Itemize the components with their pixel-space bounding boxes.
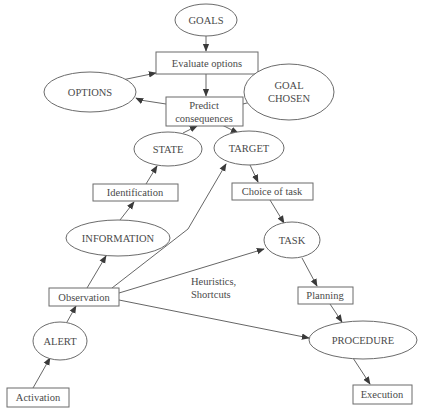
node-goals-label: GOALS <box>188 15 223 26</box>
edge-observation-to-information <box>87 256 106 288</box>
edge-activation-to-alert <box>33 358 50 388</box>
edge-predict-to-options <box>136 98 166 104</box>
node-state: STATE <box>134 132 202 166</box>
node-goal-chosen: GOAL CHOSEN <box>244 64 334 120</box>
node-goal-chosen-line1: GOAL <box>274 80 303 91</box>
edge-planning-to-procedure <box>330 304 342 322</box>
annotation-heuristics-line2: Shortcuts <box>191 289 231 300</box>
node-identification: Identification <box>93 184 178 201</box>
node-observation: Observation <box>49 288 119 306</box>
node-execution-label: Execution <box>361 389 404 400</box>
node-activation: Activation <box>7 388 69 407</box>
node-task: TASK <box>264 222 320 258</box>
edge-identification-to-state <box>146 166 157 184</box>
node-predict-line1: Predict <box>189 100 219 111</box>
annotation-heuristics-line1: Heuristics, <box>191 276 236 287</box>
annotation-heuristics: Heuristics, Shortcuts <box>191 276 236 300</box>
node-predict-line2: consequences <box>175 113 233 124</box>
node-alert-label: ALERT <box>43 336 77 347</box>
node-options-label: OPTIONS <box>68 87 112 98</box>
node-target-label: TARGET <box>229 143 270 154</box>
node-identification-label: Identification <box>107 187 164 198</box>
node-evaluate-options: Evaluate options <box>156 52 258 74</box>
node-options: OPTIONS <box>44 72 136 112</box>
edge-information-to-identification <box>120 202 134 220</box>
edge-alert-to-observation <box>67 306 76 322</box>
node-state-label: STATE <box>153 144 184 155</box>
node-procedure: PROCEDURE <box>309 321 417 359</box>
edge-state-to-predict <box>183 126 197 133</box>
node-information-label: INFORMATION <box>82 233 155 244</box>
node-planning-label: Planning <box>306 290 344 301</box>
node-execution: Execution <box>353 385 412 404</box>
edge-target-to-choice <box>250 165 258 182</box>
edge-options-to-evaluate <box>122 73 156 80</box>
node-observation-label: Observation <box>58 292 110 303</box>
decision-ladder-diagram: GOALS Evaluate options OPTIONS GOAL CHOS… <box>0 0 424 419</box>
node-goal-chosen-line2: CHOSEN <box>268 93 310 104</box>
node-choice-of-task-label: Choice of task <box>242 186 303 197</box>
edge-choice-to-task <box>270 200 284 223</box>
node-choice-of-task: Choice of task <box>232 183 313 200</box>
node-activation-label: Activation <box>16 392 61 403</box>
node-information: INFORMATION <box>66 220 170 256</box>
node-planning: Planning <box>298 287 353 304</box>
node-evaluate-options-label: Evaluate options <box>172 58 242 69</box>
node-goals: GOALS <box>175 4 237 36</box>
node-procedure-label: PROCEDURE <box>332 335 394 346</box>
edge-procedure-to-execution <box>353 358 370 384</box>
edge-observation-to-procedure <box>119 300 309 338</box>
edge-task-to-planning <box>302 258 317 286</box>
node-predict-consequences: Predict consequences <box>166 97 243 126</box>
node-target: TARGET <box>214 131 284 165</box>
node-alert: ALERT <box>33 322 87 360</box>
node-task-label: TASK <box>279 235 306 246</box>
